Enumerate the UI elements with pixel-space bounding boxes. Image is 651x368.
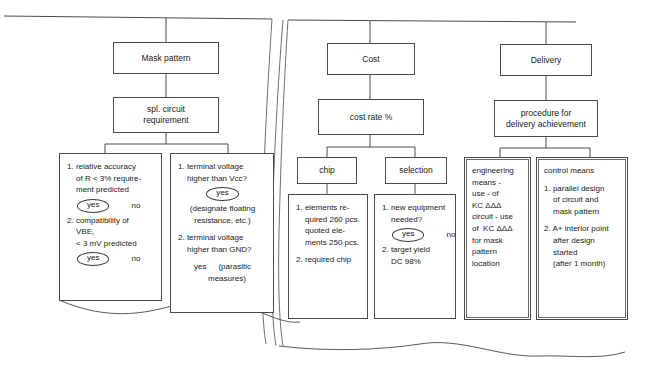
node-chip[interactable]: chip bbox=[297, 157, 357, 184]
node-cost-label: Cost bbox=[362, 54, 379, 65]
no-option[interactable]: no bbox=[446, 229, 455, 241]
node-mask-pattern-label: Mask pattern bbox=[141, 53, 190, 64]
target-yield-line-1: 2. target yield bbox=[382, 244, 449, 256]
terminal-gnd-line-2: higher than GND? bbox=[178, 244, 267, 256]
node-spl-circuit-line2: requirement bbox=[143, 115, 188, 126]
node-chip-label: chip bbox=[319, 165, 335, 176]
new-equipment-box[interactable]: 1. new equipment needed? yes no 2. targe… bbox=[374, 194, 456, 319]
node-delivery-procedure-line1: procedure for bbox=[521, 108, 572, 119]
bottom-curl-right-3 bbox=[540, 352, 625, 357]
chip-line-4: ments 250 pcs. bbox=[296, 237, 361, 249]
node-selection-label: selection bbox=[399, 165, 433, 176]
accuracy-answer-row-1[interactable]: yes no bbox=[67, 199, 155, 213]
yes-oval[interactable]: yes bbox=[206, 187, 238, 201]
control-line-3: mask pattern bbox=[544, 206, 621, 218]
control-line-4: 2. A+ interior point bbox=[544, 223, 621, 235]
bottom-curl-right-1 bbox=[279, 344, 420, 350]
parasitic-note-line-2: measures) bbox=[178, 273, 267, 285]
bottom-curl-right-2 bbox=[420, 343, 540, 357]
node-delivery-label: Delivery bbox=[531, 55, 562, 66]
equipment-answer-row[interactable]: yes no bbox=[382, 228, 449, 242]
accuracy-line-2: of R < 3% require- bbox=[67, 173, 155, 185]
engineering-line-4: KC ΔΔΔ bbox=[472, 200, 524, 212]
no-option[interactable]: no bbox=[131, 200, 140, 212]
engineering-line-3: use - of bbox=[472, 188, 524, 200]
compatibility-line-2: VBE, bbox=[67, 226, 155, 238]
engineering-line-2: means - bbox=[472, 177, 524, 189]
node-spl-circuit-line1: spl. circuit bbox=[147, 104, 185, 115]
engineering-line-7: for mask bbox=[472, 235, 524, 247]
accuracy-line-3: ment predicted bbox=[67, 184, 155, 196]
no-option[interactable]: no bbox=[131, 253, 140, 265]
page-fold-right-a bbox=[279, 20, 288, 346]
top-spine-right bbox=[288, 20, 576, 22]
engineering-line-1: engineering bbox=[472, 165, 524, 177]
control-line-1: 1. parallel design bbox=[544, 183, 621, 195]
chip-line-5: 2. required chip bbox=[296, 254, 361, 266]
control-line-6: started bbox=[544, 247, 621, 259]
terminal-voltage-box[interactable]: 1. terminal voltage higher than Vcc? yes… bbox=[170, 153, 274, 313]
node-selection[interactable]: selection bbox=[385, 157, 447, 184]
node-mask-pattern[interactable]: Mask pattern bbox=[113, 42, 219, 74]
designate-note-line-2: resistance, etc.) bbox=[178, 215, 267, 227]
flowchart-page: Mask pattern spl. circuit requirement 1.… bbox=[0, 0, 651, 368]
designate-note-line-1: (designate floating bbox=[178, 203, 267, 215]
control-line-5: after design bbox=[544, 235, 621, 247]
node-cost-rate[interactable]: cost rate % bbox=[318, 99, 424, 135]
control-line-2: of circuit and bbox=[544, 194, 621, 206]
accuracy-answer-row-2[interactable]: yes no bbox=[67, 252, 155, 266]
terminal-voltage-line-1: 1. terminal voltage bbox=[178, 161, 267, 173]
control-line-7: (after 1 month) bbox=[544, 258, 621, 270]
chip-line-2: quired 260 pcs. bbox=[296, 214, 361, 226]
accuracy-line-1: 1. relative accuracy bbox=[67, 161, 155, 173]
parasitic-note-line-1: (parasitic bbox=[218, 261, 250, 273]
compatibility-line-1: 2. compatibility of bbox=[67, 215, 155, 227]
control-means-heading: control means bbox=[544, 165, 621, 177]
top-spine-left bbox=[4, 16, 272, 19]
terminal-voltage-line-2: higher than Vcc? bbox=[178, 173, 267, 185]
engineering-line-8: pattern bbox=[472, 246, 524, 258]
relative-accuracy-box[interactable]: 1. relative accuracy of R < 3% require- … bbox=[59, 153, 162, 301]
yes-oval[interactable]: yes bbox=[77, 199, 109, 213]
terminal-answer-row-1[interactable]: yes bbox=[178, 187, 267, 201]
node-spl-circuit-requirement[interactable]: spl. circuit requirement bbox=[113, 97, 219, 133]
chip-elements-box[interactable]: 1. elements re- quired 260 pcs. quoted e… bbox=[288, 194, 368, 319]
equipment-line-2: needed? bbox=[382, 214, 449, 226]
compatibility-line-3: < 3 mV predicted bbox=[67, 238, 155, 250]
node-cost[interactable]: Cost bbox=[327, 43, 415, 75]
engineering-line-5: circuit - use bbox=[472, 211, 524, 223]
node-delivery-procedure-line2: delivery achievement bbox=[506, 119, 586, 130]
yes-option[interactable]: yes bbox=[194, 261, 206, 273]
chip-line-3: quoted ele- bbox=[296, 225, 361, 237]
engineering-means-box[interactable]: engineering means - use - of KC ΔΔΔ circ… bbox=[464, 157, 531, 320]
yes-oval[interactable]: yes bbox=[392, 228, 424, 242]
node-cost-rate-label: cost rate % bbox=[350, 112, 393, 123]
engineering-line-9: location bbox=[472, 258, 524, 270]
chip-line-1: 1. elements re- bbox=[296, 202, 361, 214]
parasitic-answer-row[interactable]: yes (parasitic bbox=[178, 261, 267, 273]
node-delivery[interactable]: Delivery bbox=[500, 44, 592, 76]
engineering-line-6: of KC ΔΔΔ bbox=[472, 223, 524, 235]
yes-oval[interactable]: yes bbox=[77, 252, 109, 266]
target-yield-line-2: DC 98% bbox=[382, 256, 449, 268]
terminal-gnd-line-1: 2. terminal voltage bbox=[178, 232, 267, 244]
equipment-line-1: 1. new equipment bbox=[382, 202, 449, 214]
control-means-box[interactable]: control means 1. parallel design of circ… bbox=[536, 157, 628, 320]
node-delivery-procedure[interactable]: procedure for delivery achievement bbox=[494, 100, 598, 137]
